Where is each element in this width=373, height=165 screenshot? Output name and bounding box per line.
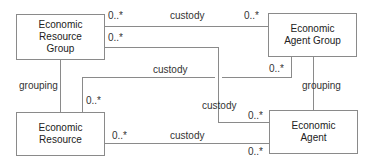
- multiplicity-label: 0..*: [248, 110, 263, 121]
- association-name-label: custody: [170, 10, 204, 21]
- multiplicity-label: 0..*: [269, 63, 284, 74]
- association-name-label: grouping: [19, 80, 58, 91]
- entity-economic-agent[interactable]: Economic Agent: [269, 110, 358, 154]
- association-name-label: grouping: [302, 80, 341, 91]
- uml-diagram: Economic Resource Group Economic Agent G…: [0, 0, 373, 165]
- entity-label: Economic Agent Group: [284, 23, 341, 47]
- connector-eag-er-custody-left: [83, 78, 216, 113]
- entity-economic-resource[interactable]: Economic Resource: [16, 112, 105, 156]
- association-name-label: custody: [170, 130, 204, 141]
- entity-economic-agent-group[interactable]: Economic Agent Group: [268, 13, 357, 57]
- multiplicity-label: 0..*: [108, 10, 123, 21]
- association-name-label: custody: [153, 64, 187, 75]
- association-name-label: custody: [202, 100, 236, 111]
- multiplicity-label: 0..*: [112, 130, 127, 141]
- multiplicity-label: 0..*: [108, 32, 123, 43]
- entity-economic-resource-group[interactable]: Economic Resource Group: [16, 14, 105, 60]
- connector-erg-ea-custody: [104, 48, 269, 123]
- entity-label: Economic Resource: [39, 122, 83, 146]
- entity-label: Economic Agent: [292, 120, 336, 144]
- entity-label: Economic Resource Group: [39, 19, 83, 55]
- multiplicity-label: 0..*: [86, 95, 101, 106]
- multiplicity-label: 0..*: [244, 10, 259, 21]
- multiplicity-label: 0..*: [248, 146, 263, 157]
